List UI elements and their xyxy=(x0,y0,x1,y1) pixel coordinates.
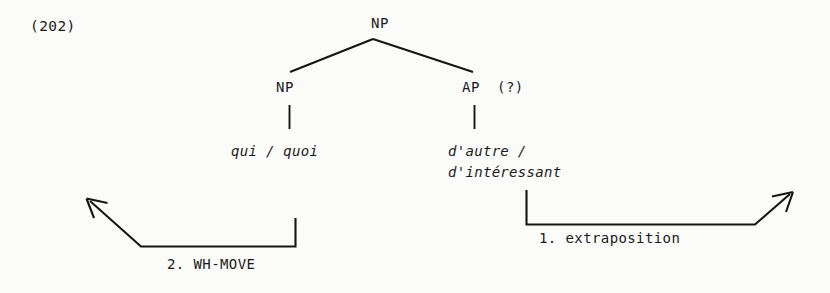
diagram-linework xyxy=(0,0,830,293)
tree-branch-left xyxy=(290,39,373,72)
tree-branch-right xyxy=(373,39,473,72)
arrow-path-wh-move xyxy=(90,201,296,247)
syntax-tree-figure: (202) NP NP AP (?) qui / quoi d'autre / … xyxy=(0,0,830,293)
arrow-path-extraposition xyxy=(527,190,791,225)
